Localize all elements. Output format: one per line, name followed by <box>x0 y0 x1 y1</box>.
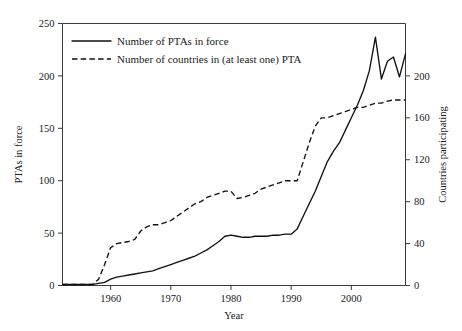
x-axis-tick-label: 1990 <box>281 293 302 304</box>
x-axis-tick-label: 1980 <box>220 293 241 304</box>
y-axis-tick-label: 0 <box>49 280 54 291</box>
y-axis-tick-label: 200 <box>39 71 55 82</box>
y-axis-tick-label: 150 <box>39 123 55 134</box>
y2-axis-tick-label: 120 <box>414 154 430 165</box>
y2-axis-tick-label: 80 <box>414 196 425 207</box>
line-chart: 0501001502002500408012016020019601970198… <box>0 0 462 331</box>
y2-axis-tick-label: 160 <box>414 112 430 123</box>
legend-label-countries: Number of countries in (at least one) PT… <box>117 53 302 66</box>
series-line-ptas <box>63 37 406 284</box>
y-axis-tick-label: 100 <box>39 175 55 186</box>
x-axis-tick-label: 1960 <box>100 293 121 304</box>
x-axis-tick-label: 1970 <box>160 293 181 304</box>
y2-axis-title: Countries participating <box>437 105 448 202</box>
y2-axis-tick-label: 40 <box>414 238 425 249</box>
y2-axis-tick-label: 0 <box>414 280 419 291</box>
chart-figure: 0501001502002500408012016020019601970198… <box>0 0 462 331</box>
legend-label-ptas: Number of PTAs in force <box>117 35 229 47</box>
x-axis-title: Year <box>224 310 244 321</box>
y-axis-tick-label: 50 <box>44 228 55 239</box>
series-line-countries <box>63 100 406 284</box>
y2-axis-tick-label: 200 <box>414 71 430 82</box>
x-axis-tick-label: 2000 <box>341 293 362 304</box>
y-axis-tick-label: 250 <box>39 18 55 29</box>
y-axis-title: PTAs in force <box>13 125 24 183</box>
